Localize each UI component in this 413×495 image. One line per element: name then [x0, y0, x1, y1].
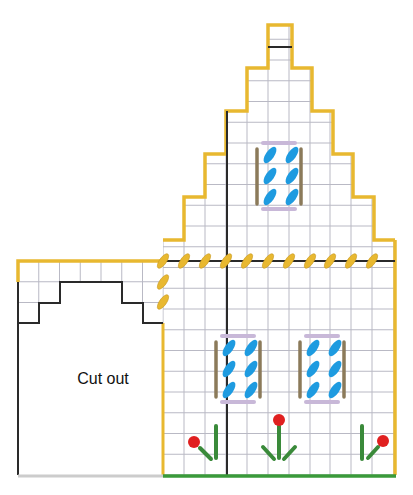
- window-pane-stitch: [220, 380, 238, 400]
- window-pane-stitch: [242, 359, 260, 379]
- window-pane-stitch: [283, 166, 301, 186]
- window-pane-stitch: [261, 187, 279, 207]
- flower-head: [188, 436, 200, 448]
- window-pane-stitch: [242, 338, 260, 358]
- window-pane-stitch: [261, 166, 279, 186]
- window-pane-stitch: [220, 359, 238, 379]
- window-pane-stitch: [261, 145, 279, 165]
- flower-head: [273, 414, 285, 426]
- flower-head: [377, 435, 389, 447]
- upper-window: [257, 143, 301, 209]
- window-pane-stitch: [304, 380, 322, 400]
- cutout-label: Cut out: [58, 370, 148, 388]
- window-pane-stitch: [326, 338, 344, 358]
- main-grid: [150, 0, 400, 475]
- window-pane-stitch: [242, 380, 260, 400]
- window-pane-stitch: [283, 187, 301, 207]
- flower-stem: [368, 447, 378, 458]
- window-pane-stitch: [304, 359, 322, 379]
- wing-gold-outline: [18, 261, 163, 282]
- window-pane-stitch: [326, 359, 344, 379]
- needlepoint-house-chart: [0, 0, 413, 495]
- window-pane-stitch: [304, 338, 322, 358]
- window-pane-stitch: [283, 145, 301, 165]
- window-pane-stitch: [220, 338, 238, 358]
- window-pane-stitch: [326, 380, 344, 400]
- windows: [216, 143, 344, 402]
